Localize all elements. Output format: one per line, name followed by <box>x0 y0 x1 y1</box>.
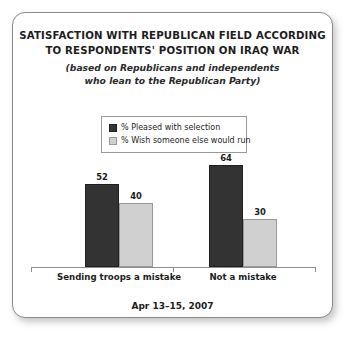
bar-value-label: 30 <box>254 208 266 217</box>
bar-item-pleased-group-2[interactable]: 64 <box>209 154 243 267</box>
chart-title-line-2: TO RESPONDENTS' POSITION ON IRAQ WAR <box>13 44 332 59</box>
chart-legend: % Pleased with selection % Wish someone … <box>101 116 247 153</box>
category-label-not-a-mistake: Not a mistake <box>209 272 276 282</box>
chart-plot-area: 52 40 64 30 <box>31 163 316 268</box>
bar-value-label: 64 <box>220 154 232 163</box>
chart-card: SATISFACTION WITH REPUBLICAN FIELD ACCOR… <box>12 12 333 318</box>
bar-rect-pleased[interactable] <box>209 165 243 267</box>
chart-footer-date: Apr 13–15, 2007 <box>13 301 332 311</box>
chart-subtitle-block: (based on Republicans and independents w… <box>13 61 332 87</box>
legend-item-wish-someone-else: % Wish someone else would run <box>109 134 239 147</box>
bar-rect-wish-someone-else[interactable] <box>119 203 153 267</box>
chart-title-block: SATISFACTION WITH REPUBLICAN FIELD ACCOR… <box>13 29 332 87</box>
chart-subtitle-line-2: who lean to the Republican Party) <box>13 74 332 87</box>
bar-value-label: 40 <box>130 192 142 201</box>
chart-title-line-1: SATISFACTION WITH REPUBLICAN FIELD ACCOR… <box>13 29 332 44</box>
legend-swatch-icon-wish-someone-else <box>109 137 117 145</box>
bar-value-label: 52 <box>96 173 108 182</box>
bar-item-wish-someone-else-group-2[interactable]: 30 <box>243 208 277 267</box>
bar-rect-pleased[interactable] <box>85 184 119 267</box>
bar-item-pleased-group-1[interactable]: 52 <box>85 173 119 267</box>
legend-label-wish-someone-else: % Wish someone else would run <box>121 136 251 145</box>
legend-label-pleased: % Pleased with selection <box>121 123 220 132</box>
legend-item-pleased: % Pleased with selection <box>109 121 239 134</box>
category-label-sending-troops-a-mistake: Sending troops a mistake <box>57 272 181 282</box>
legend-swatch-icon-pleased <box>109 124 117 132</box>
bar-item-wish-someone-else-group-1[interactable]: 40 <box>119 192 153 267</box>
chart-category-labels: Sending troops a mistake Not a mistake <box>31 272 316 286</box>
chart-subtitle-line-1: (based on Republicans and independents <box>13 61 332 74</box>
bar-rect-wish-someone-else[interactable] <box>243 219 277 267</box>
